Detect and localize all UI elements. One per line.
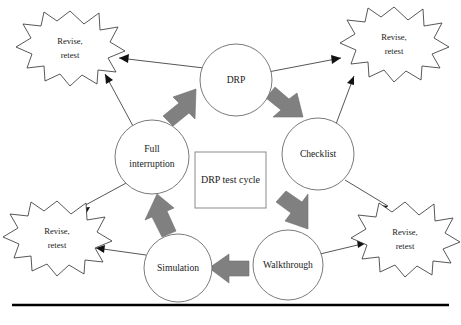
node-simulation[interactable]: Simulation (144, 234, 212, 302)
burst-label-line2: retest (385, 46, 404, 56)
node-label-full-interruption-line2: interruption (129, 158, 174, 169)
link-drp-to-top-right (268, 55, 341, 72)
burst-top-right: Revise, retest (340, 7, 449, 82)
center-title-text: DRP test cycle (201, 174, 261, 185)
burst-label-line2: retest (48, 240, 67, 250)
node-walkthrough[interactable]: Walkthrough (253, 230, 323, 300)
center-title-box: DRP test cycle (195, 152, 266, 208)
link-walkthrough-to-bottom-right (320, 240, 366, 254)
arrow-fullinterruption-to-drp (163, 89, 196, 126)
arrow-walkthrough-to-simulation (209, 254, 249, 283)
node-drp[interactable]: DRP (200, 44, 272, 116)
burst-label-line1: Revise, (381, 32, 407, 42)
node-checklist[interactable]: Checklist (282, 118, 354, 190)
burst-label-line2: retest (61, 50, 80, 60)
arrow-drp-to-checklist (266, 87, 303, 117)
drp-test-cycle-figure: Revise, retest Revise, retest Revise, re… (0, 0, 461, 325)
burst-bottom-left: Revise, retest (3, 201, 112, 276)
link-fullinterruption-to-bottom-left (80, 182, 128, 214)
burst-label-line1: Revise, (57, 36, 83, 46)
arrow-simulation-to-fullinterruption (145, 194, 176, 237)
diagram-canvas: Revise, retest Revise, retest Revise, re… (0, 0, 461, 325)
node-label-simulation: Simulation (157, 262, 199, 273)
link-checklist-to-top-right (336, 76, 354, 124)
arrow-checklist-to-walkthrough (276, 191, 308, 229)
burst-label-line1: Revise, (44, 226, 70, 236)
node-label-checklist: Checklist (300, 148, 337, 159)
burst-bottom-right: Revise, retest (351, 202, 460, 277)
node-full-interruption[interactable]: Full interruption (115, 120, 189, 194)
node-label-drp: DRP (227, 74, 246, 85)
burst-label-line2: retest (396, 241, 415, 251)
link-fullinterruption-to-top-left (105, 74, 133, 126)
node-label-walkthrough: Walkthrough (263, 259, 313, 270)
link-simulation-to-bottom-left (96, 245, 146, 255)
burst-top-left: Revise, retest (16, 11, 125, 86)
node-label-full-interruption-line1: Full (144, 143, 160, 154)
burst-label-line1: Revise, (392, 227, 418, 237)
link-drp-to-top-left (119, 54, 204, 68)
